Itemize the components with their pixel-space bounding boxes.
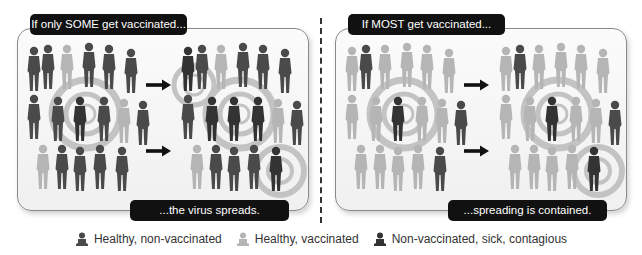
legend-item-healthy-vaccinated: Healthy, vaccinated (236, 232, 359, 246)
scene-virus-spreads (18, 29, 308, 210)
crowd-illustration-some (18, 29, 308, 210)
panel-some-vaccinated (17, 28, 309, 211)
person-sick-icon (373, 232, 387, 246)
legend: Healthy, non-vaccinated Healthy, vaccina… (0, 229, 642, 249)
arrow-icon (464, 146, 489, 157)
dashed-divider (320, 18, 322, 223)
legend-label: Healthy, non-vaccinated (94, 232, 222, 246)
legend-item-sick-contagious: Non-vaccinated, sick, contagious (373, 232, 567, 246)
panel-title-some: If only SOME get vaccinated... (30, 14, 187, 35)
legend-label: Non-vaccinated, sick, contagious (392, 232, 567, 246)
arrow-icon (464, 80, 489, 91)
legend-label: Healthy, vaccinated (255, 232, 359, 246)
arrow-icon (146, 80, 171, 91)
panel-caption-most: ...spreading is contained. (448, 200, 607, 221)
scene-spreading-contained (336, 29, 626, 210)
person-light-icon (236, 232, 250, 246)
legend-item-healthy-non-vaccinated: Healthy, non-vaccinated (75, 232, 222, 246)
panel-most-vaccinated (335, 28, 627, 211)
panel-title-most: If MOST get vaccinated... (348, 14, 505, 35)
arrow-icon (146, 146, 171, 157)
crowd-illustration-most (336, 29, 626, 210)
person-dark-icon (75, 232, 89, 246)
panel-caption-some: ...the virus spreads. (130, 200, 289, 221)
